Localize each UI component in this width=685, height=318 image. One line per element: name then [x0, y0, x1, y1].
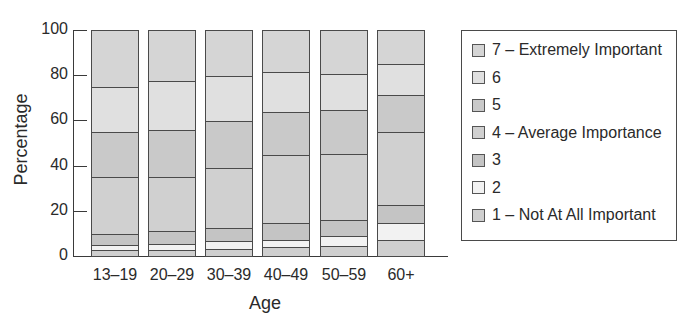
- stacked-bar-chart: Percentage Age 020406080100 13–1920–2930…: [0, 0, 685, 318]
- bar-segment-level-7: [149, 31, 195, 81]
- bar-segment-level-4: [206, 168, 252, 228]
- bar-segment-level-3: [92, 234, 138, 245]
- y-tick-label: 20: [28, 202, 68, 218]
- y-tick-label: 0: [28, 247, 68, 263]
- legend-label: 3: [492, 151, 501, 169]
- x-axis-title: Age: [240, 293, 290, 314]
- legend-label: 4 – Average Importance: [492, 124, 662, 142]
- bar-segment-level-6: [92, 87, 138, 132]
- bar-segment-level-5: [263, 112, 309, 155]
- legend-swatch-icon: [472, 44, 485, 57]
- bar-segment-level-6: [378, 64, 424, 96]
- bar-segment-level-7: [206, 31, 252, 76]
- bar-segment-level-4: [263, 155, 309, 224]
- legend-item: 1 – Not At All Important: [472, 205, 656, 225]
- legend-item: 4 – Average Importance: [472, 123, 662, 143]
- bar-50–59: [320, 30, 368, 257]
- bar-segment-level-6: [149, 81, 195, 131]
- y-tick-mark: [73, 120, 87, 121]
- legend-label: 2: [492, 179, 501, 197]
- legend: 7 – Extremely Important654 – Average Imp…: [461, 30, 677, 241]
- bar-40–49: [262, 30, 310, 257]
- bar-segment-level-1: [321, 246, 367, 256]
- legend-swatch-icon: [472, 71, 485, 84]
- bar-segment-level-2: [206, 241, 252, 249]
- bar-segment-level-1: [378, 240, 424, 256]
- bar-30–39: [205, 30, 253, 257]
- bar-segment-level-6: [321, 74, 367, 110]
- bar-segment-level-5: [206, 121, 252, 168]
- y-tick-mark: [73, 30, 87, 31]
- bar-segment-level-4: [92, 177, 138, 233]
- bar-segment-level-1: [206, 249, 252, 256]
- bar-segment-level-2: [321, 236, 367, 246]
- bar-segment-level-2: [149, 244, 195, 251]
- bar-segment-level-5: [378, 95, 424, 132]
- bar-segment-level-1: [92, 250, 138, 256]
- bar-13–19: [91, 30, 139, 257]
- bar-segment-level-1: [149, 250, 195, 256]
- bar-segment-level-5: [92, 132, 138, 177]
- y-tick-label: 40: [28, 157, 68, 173]
- bar-segment-level-6: [206, 76, 252, 121]
- legend-swatch-icon: [472, 126, 485, 139]
- legend-label: 7 – Extremely Important: [492, 41, 662, 59]
- bar-segment-level-4: [321, 154, 367, 220]
- x-tick-label: 60+: [366, 266, 436, 284]
- legend-swatch-icon: [472, 99, 485, 112]
- y-axis-line: [73, 30, 74, 257]
- y-tick-label: 60: [28, 111, 68, 127]
- bar-60+: [377, 30, 425, 257]
- legend-swatch-icon: [472, 181, 485, 194]
- bar-segment-level-7: [321, 31, 367, 74]
- bar-segment-level-5: [149, 130, 195, 177]
- y-tick-label: 100: [28, 21, 68, 37]
- bar-segment-level-3: [206, 228, 252, 242]
- y-tick-label: 80: [28, 66, 68, 82]
- legend-item: 3: [472, 150, 501, 170]
- legend-label: 1 – Not At All Important: [492, 206, 656, 224]
- bar-segment-level-7: [263, 31, 309, 72]
- bar-segment-level-4: [149, 177, 195, 231]
- bar-segment-level-1: [263, 247, 309, 256]
- legend-item: 5: [472, 95, 501, 115]
- bar-segment-level-3: [378, 205, 424, 223]
- bar-segment-level-2: [263, 240, 309, 247]
- legend-swatch-icon: [472, 209, 485, 222]
- bar-segment-level-3: [263, 223, 309, 240]
- bar-segment-level-7: [92, 31, 138, 87]
- bar-segment-level-3: [321, 220, 367, 236]
- bar-segment-level-2: [378, 223, 424, 240]
- legend-label: 6: [492, 69, 501, 87]
- legend-item: 2: [472, 178, 501, 198]
- bar-20–29: [148, 30, 196, 257]
- bar-segment-level-7: [378, 31, 424, 64]
- legend-swatch-icon: [472, 154, 485, 167]
- bar-segment-level-4: [378, 132, 424, 205]
- bar-segment-level-3: [149, 231, 195, 243]
- y-tick-mark: [73, 166, 87, 167]
- legend-item: 7 – Extremely Important: [472, 40, 662, 60]
- legend-item: 6: [472, 68, 501, 88]
- y-tick-mark: [73, 75, 87, 76]
- y-tick-mark: [73, 211, 87, 212]
- bar-segment-level-6: [263, 72, 309, 113]
- legend-label: 5: [492, 96, 501, 114]
- bar-segment-level-5: [321, 110, 367, 154]
